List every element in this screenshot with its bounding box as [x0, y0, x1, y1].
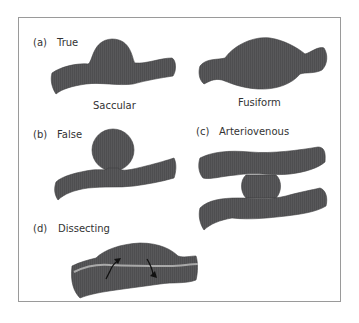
panel-a-title: True	[57, 37, 78, 48]
panel-d-letter: (d)	[33, 223, 47, 234]
panel-c-letter: (c)	[196, 126, 209, 137]
aneurysm-diagram	[0, 0, 359, 323]
fusiform-label: Fusiform	[238, 97, 281, 108]
panel-d-title: Dissecting	[58, 223, 110, 234]
panel-c-title: Arteriovenous	[219, 126, 289, 137]
panel-b-letter: (b)	[33, 129, 47, 140]
dissecting-aneurysm-shape	[71, 243, 198, 298]
arteriovenous-aneurysm-shape	[199, 147, 327, 230]
fusiform-aneurysm-shape	[199, 38, 327, 89]
saccular-label: Saccular	[93, 100, 136, 111]
panel-b-title: False	[57, 129, 82, 140]
panel-a-letter: (a)	[33, 37, 47, 48]
